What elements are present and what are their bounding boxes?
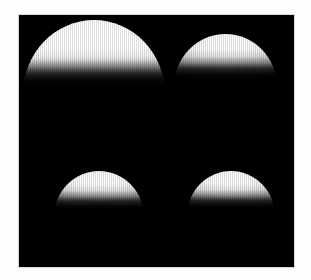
dome-object-bottom-left — [54, 171, 144, 217]
dome-body — [23, 20, 165, 94]
dome-body — [54, 171, 144, 217]
dome-object-bottom-right — [187, 171, 275, 216]
figure-root — [0, 0, 311, 280]
dome-object-top-right — [174, 34, 277, 87]
dome-body — [187, 171, 275, 216]
image-panel — [19, 15, 294, 267]
dome-object-top-left — [23, 20, 165, 94]
dome-body — [174, 34, 277, 87]
